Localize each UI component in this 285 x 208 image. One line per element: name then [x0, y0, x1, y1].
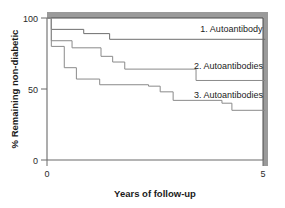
x-tick-label-5: 5: [260, 169, 265, 179]
y-axis-title: % Remaining non-diabetic: [9, 30, 20, 149]
series-label-2: 2. Autoantibodies: [194, 61, 264, 71]
series-label-3: 3. Autoantibodies: [194, 90, 264, 100]
top-shadow-bar: [47, 12, 267, 18]
x-axis-title: Years of follow-up: [114, 188, 196, 199]
y-tick-label-50: 50: [28, 85, 38, 95]
chart-figure: 100 50 0 0 5 % Remaining non-diabetic Ye…: [0, 0, 285, 208]
y-tick-label-0: 0: [33, 156, 38, 166]
x-tick-label-0: 0: [44, 169, 49, 179]
right-shadow-bar: [263, 12, 268, 166]
series-label-1: 1. Autoantibody: [200, 24, 263, 34]
survival-chart: 100 50 0 0 5 % Remaining non-diabetic Ye…: [0, 0, 285, 208]
y-tick-label-100: 100: [23, 14, 38, 24]
